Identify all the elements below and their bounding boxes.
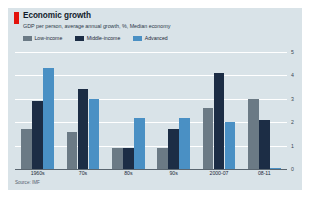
x-axis-tick-label: 1960s: [15, 170, 60, 180]
bar[interactable]: [112, 148, 123, 169]
bar-group: [151, 52, 196, 169]
bar-group: [106, 52, 151, 169]
legend-item-advanced[interactable]: Advanced: [133, 35, 167, 41]
chart-header: Economic growth GDP per person, average …: [8, 8, 302, 52]
bar[interactable]: [225, 122, 236, 169]
bar-group: [60, 52, 105, 169]
x-axis-tick-label: 80s: [106, 170, 151, 180]
legend-swatch-icon: [133, 36, 142, 41]
bar[interactable]: [203, 108, 214, 169]
bar[interactable]: [67, 132, 78, 169]
bar[interactable]: [248, 99, 259, 169]
legend-swatch-icon: [23, 36, 32, 41]
x-axis-tick-label: 90s: [151, 170, 196, 180]
y-axis: 012345: [289, 52, 309, 169]
bar[interactable]: [259, 120, 270, 169]
chart-screenshot: Economic growth GDP per person, average …: [0, 0, 310, 198]
bar-groups: [15, 52, 287, 169]
chart-title: Economic growth: [23, 11, 91, 20]
chart-subtitle: GDP per person, average annual growth, %…: [23, 23, 170, 29]
bar-group: [15, 52, 60, 169]
bar[interactable]: [21, 129, 32, 169]
source-note: Source: IMF: [15, 180, 40, 185]
chart-card: Economic growth GDP per person, average …: [8, 8, 302, 190]
bar[interactable]: [123, 148, 134, 169]
bar[interactable]: [270, 168, 281, 169]
legend-label: Advanced: [145, 35, 168, 41]
bar[interactable]: [214, 73, 225, 169]
bar[interactable]: [179, 118, 190, 169]
legend-item-middle-income[interactable]: Middle-income: [75, 35, 120, 41]
y-axis-tick-label: 4: [291, 72, 294, 78]
bar[interactable]: [32, 101, 43, 169]
y-axis-tick-label: 0: [291, 166, 294, 172]
x-axis-tick-label: 2000-07: [196, 170, 241, 180]
brand-accent-mark: [14, 12, 19, 24]
y-axis-tick-label: 5: [291, 49, 294, 55]
y-axis-tick-label: 2: [291, 119, 294, 125]
x-axis-tick-label: 70s: [60, 170, 105, 180]
bar[interactable]: [89, 99, 100, 169]
bar-group: [196, 52, 241, 169]
legend-label: Middle-income: [87, 35, 120, 41]
bar[interactable]: [78, 89, 89, 169]
bar[interactable]: [157, 148, 168, 169]
x-axis-tick-label: 08-11: [242, 170, 287, 180]
plot-area: [15, 52, 287, 169]
bar[interactable]: [43, 68, 54, 169]
chart-legend: Low-income Middle-income Advanced: [23, 35, 168, 41]
legend-label: Low-income: [35, 35, 63, 41]
legend-item-low-income[interactable]: Low-income: [23, 35, 62, 41]
legend-swatch-icon: [75, 36, 84, 41]
x-axis: 1960s70s80s90s2000-0708-11: [15, 170, 287, 180]
bar-group: [242, 52, 287, 169]
bar[interactable]: [134, 118, 145, 169]
bar[interactable]: [168, 129, 179, 169]
y-axis-tick-label: 1: [291, 143, 294, 149]
y-axis-tick-label: 3: [291, 96, 294, 102]
